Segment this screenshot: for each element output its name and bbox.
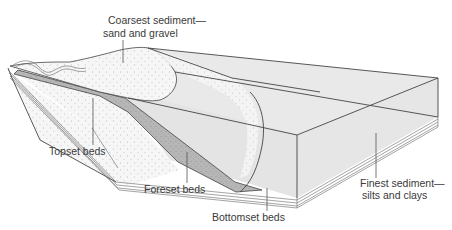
coarsest-label-line2: sand and gravel xyxy=(103,27,178,39)
finest-label-line1: Finest sediment— xyxy=(360,177,445,189)
delta-diagram: Coarsest sediment— sand and gravel Topse… xyxy=(0,0,452,230)
bottomset-label: Bottomset beds xyxy=(212,211,285,223)
coarsest-label-line1: Coarsest sediment— xyxy=(108,14,207,26)
topset-label: Topset beds xyxy=(49,145,106,157)
foreset-label: Foreset beds xyxy=(144,183,205,195)
finest-label-line2: silts and clays xyxy=(362,189,427,201)
